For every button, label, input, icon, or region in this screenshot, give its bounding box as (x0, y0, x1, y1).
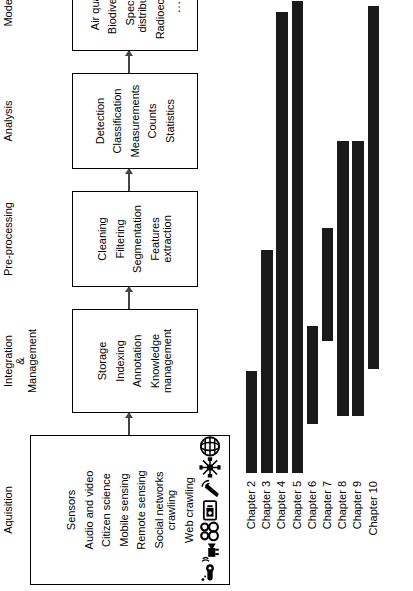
chart-bar (337, 141, 348, 417)
chart-category-label: Chapter 9 (350, 481, 365, 529)
stage-item: Segmentation (131, 198, 144, 280)
stage-item: Cleaning (96, 198, 109, 280)
chart-category-label: Chapter 3 (259, 481, 274, 529)
stage-item: Mobile sensing (118, 442, 131, 578)
chart-bar (352, 141, 363, 417)
figure-canvas: Aquisition Sensors Audio and video Citiz… (0, 0, 413, 591)
smartphone-icon (197, 499, 223, 520)
stage-item: Indexing (114, 316, 127, 406)
stage-item: Classification (111, 80, 124, 162)
pipeline-stage-integration-management: Integration & Management Storage Indexin… (0, 309, 235, 413)
chart-row: Chapter 5 (292, 1, 303, 473)
pipeline-diagram: Aquisition Sensors Audio and video Citiz… (0, 0, 235, 591)
connector-analysis-to-modelling (128, 51, 130, 73)
chart-bar (276, 12, 287, 473)
stage-item: Counts (146, 80, 159, 162)
satellite-dish-icon (197, 478, 223, 499)
pipeline-stage-modelling: Modelling Air quality Biodiversity Speci… (0, 0, 235, 51)
connector-integration-to-preprocessing (128, 287, 130, 309)
stage-box-acquisition: Sensors Audio and video Citizen science … (30, 435, 230, 585)
pipeline-stage-acquisition: Aquisition Sensors Audio and video Citiz… (0, 435, 235, 585)
stage-box-integration-management: Storage Indexing Annotation Knowledge ma… (72, 309, 198, 413)
chart-row: Chapter 2 (246, 1, 257, 473)
chart-bar (307, 326, 318, 424)
chart-category-label: Chapter 5 (290, 481, 305, 529)
rotated-figure: Aquisition Sensors Audio and video Citiz… (0, 0, 413, 591)
stage-item: Audio and video (83, 442, 96, 578)
chapter-coverage-chart: Chapter 2Chapter 3Chapter 4Chapter 5Chap… (240, 0, 413, 591)
stage-box-modelling: Air quality Biodiversity Species distrib… (72, 0, 198, 51)
stage-item: Filtering (114, 198, 127, 280)
stage-item: Biodiversity (106, 0, 119, 44)
stage-item: Citizen science (100, 442, 113, 578)
chart-row: Chapter 8 (337, 1, 348, 473)
stage-item: Air quality (89, 0, 102, 44)
chart-bar (292, 1, 303, 473)
chart-category-label: Chapter 8 (335, 481, 350, 529)
stage-caption-pre-processing: Pre-processing (2, 191, 14, 287)
stage-caption-integration-management: Integration & Management (2, 309, 38, 413)
chart-bar (368, 6, 379, 369)
chart-row: Chapter 9 (352, 1, 363, 473)
stage-item: Remote sensing (135, 442, 148, 578)
chart-row: Chapter 4 (276, 1, 287, 473)
social-network-icon (197, 457, 223, 478)
chart-category-label: Chapter 2 (244, 481, 259, 529)
stage-caption-analysis: Analysis (2, 73, 14, 169)
stage-item: Measurements (129, 80, 142, 162)
sensor-thermometer-icon (197, 563, 223, 584)
binoculars-icon (197, 521, 223, 542)
stage-item: Annotation (131, 316, 144, 406)
chart-bar (246, 371, 257, 473)
chart-row: Chapter 6 (307, 1, 318, 473)
chart-row: Chapter 10 (368, 1, 379, 473)
stage-item: Statistics (164, 80, 177, 162)
stage-box-analysis: Detection Classification Measurements Co… (72, 73, 198, 169)
chart-plot-area: Chapter 2Chapter 3Chapter 4Chapter 5Chap… (240, 0, 413, 473)
connector-acquisition-to-integration (128, 413, 130, 435)
chart-bar (261, 250, 272, 473)
chart-category-label: Chapter 4 (274, 481, 289, 529)
stage-caption-acquisition: Aquisition (2, 435, 14, 585)
stage-box-pre-processing: Cleaning Filtering Segmentation Features… (72, 191, 198, 287)
stage-item: Knowledge management (149, 316, 174, 406)
stage-item: Radioecology (154, 0, 167, 44)
chart-bar (322, 228, 333, 341)
acquisition-icon-row (197, 436, 223, 584)
stage-caption-modelling: Modelling (2, 0, 14, 51)
chart-category-label: Chapter 7 (320, 481, 335, 529)
pipeline-stage-analysis: Analysis Detection Classification Measur… (0, 73, 235, 169)
stage-item-ellipsis: … (171, 0, 181, 44)
video-camera-icon (197, 542, 223, 563)
chart-category-label: Chapter 10 (366, 481, 381, 535)
stage-item: Species distribution (124, 0, 149, 44)
stage-item: Storage (96, 316, 109, 406)
chart-row: Chapter 7 (322, 1, 333, 473)
stage-item: Detection (94, 80, 107, 162)
stage-item: Features extraction (149, 198, 174, 280)
connector-preprocessing-to-analysis (128, 169, 130, 191)
stage-item: Social networks crawling (153, 442, 178, 578)
chart-row: Chapter 3 (261, 1, 272, 473)
pipeline-stage-pre-processing: Pre-processing Cleaning Filtering Segmen… (0, 191, 235, 287)
stage-item: Sensors (65, 442, 78, 578)
globe-icon (197, 436, 223, 457)
stage-item: Web crawling (183, 442, 196, 578)
chart-category-label: Chapter 6 (305, 481, 320, 529)
